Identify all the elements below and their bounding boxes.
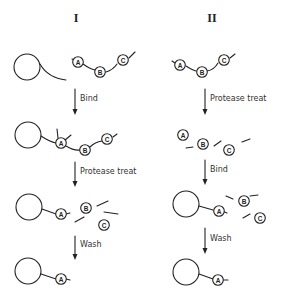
col1-arrow-1: Bind bbox=[73, 89, 98, 115]
domain-a: A bbox=[56, 274, 67, 285]
domain-a: A bbox=[73, 57, 84, 68]
domain-c: C bbox=[118, 55, 129, 66]
col1-arrow-3: Wash bbox=[73, 236, 102, 260]
svg-text:A: A bbox=[217, 208, 222, 215]
col1-row1: A B C bbox=[14, 52, 135, 80]
domain-c: C bbox=[219, 55, 230, 66]
svg-text:C: C bbox=[227, 147, 232, 154]
svg-text:A: A bbox=[59, 140, 64, 147]
col1-arrow-2: Protease treat bbox=[73, 162, 137, 187]
step-label: Wash bbox=[210, 234, 232, 243]
svg-text:B: B bbox=[83, 147, 88, 154]
domain-c: C bbox=[224, 145, 235, 156]
svg-text:B: B bbox=[84, 205, 89, 212]
step-label: Bind bbox=[80, 94, 98, 103]
col2-row3: A B C bbox=[173, 191, 265, 223]
svg-text:B: B bbox=[242, 198, 247, 205]
svg-text:A: A bbox=[216, 277, 221, 284]
vesicle bbox=[15, 122, 41, 148]
step-label: Protease treat bbox=[80, 167, 137, 176]
domain-c: C bbox=[99, 220, 110, 231]
svg-text:C: C bbox=[222, 57, 227, 64]
col2-arrow-1: Protease treat bbox=[203, 89, 267, 115]
step-label: Bind bbox=[210, 165, 228, 174]
col2-row2: A B C bbox=[178, 130, 250, 156]
domain-b: B bbox=[80, 145, 91, 156]
column-title-ii: II bbox=[207, 11, 217, 25]
col1-row3: A B C bbox=[16, 194, 118, 230]
domain-a: A bbox=[214, 206, 225, 217]
domain-b: B bbox=[197, 67, 208, 78]
step-label: Protease treat bbox=[210, 94, 267, 103]
svg-text:A: A bbox=[76, 59, 81, 66]
protein-chain: A B C bbox=[72, 52, 135, 77]
col1-row4: A bbox=[15, 258, 70, 284]
svg-text:A: A bbox=[181, 132, 186, 139]
domain-a: A bbox=[213, 275, 224, 286]
svg-text:C: C bbox=[121, 57, 126, 64]
domain-b: B bbox=[198, 139, 209, 150]
col1-row2: A B C bbox=[15, 122, 117, 155]
vesicle bbox=[15, 258, 41, 284]
svg-text:A: A bbox=[59, 276, 64, 283]
col2-arrow-3: Wash bbox=[203, 228, 232, 254]
svg-text:B: B bbox=[98, 69, 103, 76]
svg-text:A: A bbox=[59, 211, 64, 218]
domain-a: A bbox=[56, 209, 67, 220]
svg-text:C: C bbox=[102, 222, 107, 229]
domain-b: B bbox=[81, 203, 92, 214]
column-title-i: I bbox=[74, 11, 79, 25]
domain-a: A bbox=[56, 138, 67, 149]
domain-c: C bbox=[102, 134, 113, 145]
domain-b: B bbox=[239, 196, 250, 207]
svg-text:A: A bbox=[178, 62, 183, 69]
vesicle bbox=[16, 194, 42, 220]
step-label: Wash bbox=[80, 240, 102, 249]
svg-text:C: C bbox=[258, 215, 263, 222]
protease-protection-diagram: I II A B C Bind A B C bbox=[0, 0, 284, 300]
domain-a: A bbox=[178, 130, 189, 141]
svg-text:C: C bbox=[105, 136, 110, 143]
col2-row4: A bbox=[173, 259, 228, 285]
col2-row1: A B C bbox=[172, 54, 235, 77]
vesicle bbox=[173, 191, 199, 217]
domain-b: B bbox=[95, 67, 106, 78]
receptor-tail bbox=[40, 64, 66, 80]
domain-a: A bbox=[175, 60, 186, 71]
vesicle bbox=[14, 54, 40, 80]
vesicle bbox=[173, 259, 199, 285]
domain-c: C bbox=[255, 213, 266, 224]
col2-arrow-2: Bind bbox=[203, 160, 228, 185]
svg-text:B: B bbox=[201, 141, 206, 148]
svg-text:B: B bbox=[200, 69, 205, 76]
